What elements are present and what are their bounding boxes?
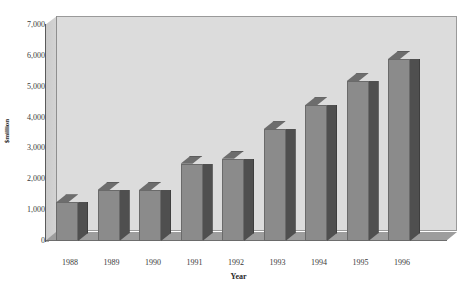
- plot-area: [45, 16, 457, 248]
- bar-top-edge: [56, 194, 78, 195]
- x-axis-title: Year: [0, 272, 467, 281]
- x-tick-label: 1996: [382, 259, 422, 267]
- bar-side-face: [120, 190, 130, 241]
- y-tick-label: 2,000: [11, 175, 45, 183]
- bar-1993: [264, 129, 286, 241]
- bar-1992: [222, 159, 244, 241]
- bar-front-face: [347, 81, 369, 241]
- bar-side-face: [410, 59, 420, 241]
- bar-front-face: [305, 105, 327, 241]
- x-tick-label: 1994: [299, 259, 339, 267]
- bar-front-face: [181, 164, 203, 241]
- bar-side-face: [244, 159, 254, 241]
- bar-top-edge: [98, 182, 120, 183]
- bar-top-edge: [347, 73, 369, 74]
- x-tick-label: 1993: [258, 259, 298, 267]
- bar-top-edge: [181, 156, 203, 157]
- bar-side-face: [78, 202, 88, 241]
- bars-layer: [45, 16, 457, 248]
- y-tick-label: 4,000: [11, 114, 45, 122]
- bar-chart-figure: $million 01,0002,0003,0004,0005,0006,000…: [0, 0, 467, 286]
- bar-top-edge: [139, 182, 161, 183]
- bar-1990: [139, 190, 161, 241]
- x-tick-label: 1988: [50, 259, 90, 267]
- x-tick-label: 1991: [175, 259, 215, 267]
- bar-top-edge: [305, 97, 327, 98]
- bar-side-face: [286, 129, 296, 241]
- y-tick-label: 1,000: [11, 206, 45, 214]
- x-tick-label: 1989: [92, 259, 132, 267]
- bar-top-edge: [264, 121, 286, 122]
- x-tick-label: 1992: [216, 259, 256, 267]
- x-tick-label: 1995: [341, 259, 381, 267]
- bar-front-face: [264, 129, 286, 241]
- bar-front-face: [56, 202, 78, 241]
- bar-top-edge: [388, 51, 410, 52]
- bar-side-face: [369, 81, 379, 241]
- y-tick-label: 3,000: [11, 144, 45, 152]
- x-axis-title-label: Year: [231, 272, 247, 281]
- bar-top-edge: [222, 151, 244, 152]
- y-tick-label: 6,000: [11, 52, 45, 60]
- bar-front-face: [139, 190, 161, 241]
- bar-1988: [56, 202, 78, 241]
- y-axis-ticks: 01,0002,0003,0004,0005,0006,0007,000: [7, 0, 45, 286]
- bar-1994: [305, 105, 327, 241]
- bar-side-face: [203, 164, 213, 241]
- bar-1989: [98, 190, 120, 241]
- bar-1996: [388, 59, 410, 241]
- x-tick-label: 1990: [133, 259, 173, 267]
- bar-side-face: [327, 105, 337, 241]
- bar-front-face: [98, 190, 120, 241]
- bar-1995: [347, 81, 369, 241]
- bar-side-face: [161, 190, 171, 241]
- bar-1991: [181, 164, 203, 241]
- bar-front-face: [388, 59, 410, 241]
- bar-front-face: [222, 159, 244, 241]
- y-tick-label: 0: [11, 237, 45, 245]
- y-tick-label: 5,000: [11, 83, 45, 91]
- y-tick-label: 7,000: [11, 21, 45, 29]
